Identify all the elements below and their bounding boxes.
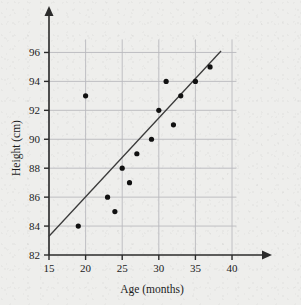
y-tick-label: 84: [29, 220, 41, 232]
y-tick-label: 86: [29, 191, 41, 203]
y-axis-title: Height (cm): [10, 120, 23, 176]
chart-figure: 152025303540 8284868890929496 Age (month…: [0, 0, 301, 305]
data-point: [105, 195, 110, 200]
y-tick-label: 88: [29, 162, 41, 174]
data-point: [120, 166, 125, 171]
x-tick-label: 35: [190, 262, 202, 274]
y-tick-label: 94: [29, 75, 41, 87]
x-tick-label: 25: [117, 262, 129, 274]
data-point: [76, 223, 81, 228]
x-tick-label: 20: [80, 262, 92, 274]
data-points: [76, 64, 213, 228]
x-axis-arrow-icon: [262, 251, 272, 260]
y-tick-label: 90: [29, 133, 41, 145]
x-tick-label: 15: [44, 262, 56, 274]
data-point: [164, 79, 169, 84]
data-point: [83, 93, 88, 98]
data-point: [171, 122, 176, 127]
gridlines: [49, 39, 236, 255]
data-point: [156, 108, 161, 113]
data-point: [149, 137, 154, 142]
data-point: [134, 151, 139, 156]
y-axis-arrow-icon: [45, 6, 54, 16]
y-tick-labels: 8284868890929496: [29, 46, 41, 261]
scatter-plot: 152025303540 8284868890929496 Age (month…: [0, 0, 301, 305]
x-axis-title: Age (months): [120, 283, 184, 296]
axes: [45, 6, 273, 260]
data-point: [207, 64, 212, 69]
x-tick-label: 30: [153, 262, 165, 274]
data-point: [127, 180, 132, 185]
y-tick-label: 82: [29, 249, 40, 261]
x-tick-label: 40: [227, 262, 239, 274]
data-point: [193, 79, 198, 84]
y-tick-label: 96: [29, 46, 41, 58]
x-tick-labels: 152025303540: [44, 262, 239, 274]
tick-marks: [44, 52, 232, 260]
y-tick-label: 92: [29, 104, 40, 116]
data-point: [178, 93, 183, 98]
data-point: [112, 209, 117, 214]
